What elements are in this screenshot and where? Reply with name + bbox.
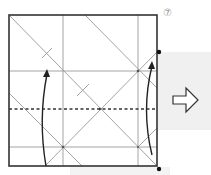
tick-mark <box>42 48 52 58</box>
reference-dot-bottom <box>157 167 161 171</box>
next-step-arrow-icon <box>173 88 198 112</box>
right-fold-arrow <box>147 61 156 155</box>
crease-lines <box>9 15 157 166</box>
intersection-dot <box>137 70 140 73</box>
upper-right-diagonal-crease <box>85 15 157 88</box>
intersection-dot <box>137 146 139 148</box>
reference-dot-top <box>157 50 161 54</box>
intersection-dot <box>62 146 65 149</box>
arrow-head-icon <box>43 69 50 77</box>
step-number: ⑦ <box>163 7 172 18</box>
left-fold-arrow <box>42 69 50 166</box>
arrow-head-icon <box>148 61 155 69</box>
lower-left-diagonal-crease <box>9 93 82 166</box>
origami-diagram <box>0 0 211 175</box>
